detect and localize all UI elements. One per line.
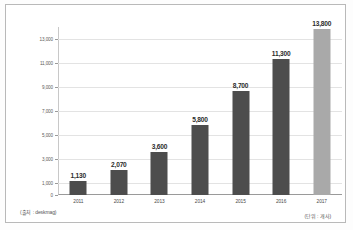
bar-slot: 11,3002016 bbox=[261, 27, 302, 195]
x-tick-label-2012: 2012 bbox=[114, 199, 124, 204]
x-tick-label-2017: 2017 bbox=[317, 199, 327, 204]
bars-group: 1,13020112,07020123,60020135,80020148,70… bbox=[58, 27, 342, 195]
bar-slot: 13,8002017 bbox=[301, 27, 342, 195]
bar-value-label-2013: 3,600 bbox=[152, 143, 168, 150]
figure-frame: 01,0003,0005,0007,0009,00011,00013,000 1… bbox=[5, 4, 346, 223]
bar-slot: 2,0702012 bbox=[99, 27, 140, 195]
y-tick-label: 3,000 bbox=[42, 157, 53, 162]
bar-2017[interactable] bbox=[313, 29, 330, 195]
y-tick-mark bbox=[55, 195, 58, 196]
y-tick-label: 7,000 bbox=[42, 109, 53, 114]
bar-2011[interactable] bbox=[70, 181, 87, 195]
x-tick-label-2016: 2016 bbox=[276, 199, 286, 204]
bar-slot: 5,8002014 bbox=[180, 27, 221, 195]
bar-2013[interactable] bbox=[151, 152, 168, 195]
x-tick-label-2013: 2013 bbox=[154, 199, 164, 204]
bar-slot: 8,7002015 bbox=[220, 27, 261, 195]
bar-2014[interactable] bbox=[191, 125, 208, 195]
y-tick-label: 5,000 bbox=[42, 133, 53, 138]
bar-value-label-2012: 2,070 bbox=[111, 161, 127, 168]
chart-root: 01,0003,0005,0007,0009,00011,00013,000 1… bbox=[0, 0, 353, 230]
bar-value-label-2011: 1,130 bbox=[71, 172, 87, 179]
y-tick-label: 1,000 bbox=[42, 180, 53, 185]
bar-2015[interactable] bbox=[232, 91, 249, 195]
x-tick-label-2014: 2014 bbox=[195, 199, 205, 204]
bar-2012[interactable] bbox=[110, 170, 127, 195]
y-tick-label: 11,000 bbox=[40, 61, 53, 66]
source-footnote: (출처 : deskmag) bbox=[20, 208, 56, 215]
bar-value-label-2017: 13,800 bbox=[312, 20, 331, 27]
x-tick-label-2011: 2011 bbox=[73, 199, 83, 204]
bar-2016[interactable] bbox=[273, 59, 290, 195]
bar-slot: 3,6002013 bbox=[139, 27, 180, 195]
bar-value-label-2015: 8,700 bbox=[233, 82, 249, 89]
y-tick-label: 9,000 bbox=[42, 85, 53, 90]
y-tick-label: 13,000 bbox=[40, 37, 53, 42]
bar-value-label-2014: 5,800 bbox=[192, 116, 208, 123]
x-tick-label-2015: 2015 bbox=[235, 199, 245, 204]
plot-area: 01,0003,0005,0007,0009,00011,00013,000 1… bbox=[58, 27, 342, 195]
unit-footnote: (단위 : 개사) bbox=[304, 212, 331, 219]
bar-value-label-2016: 11,300 bbox=[272, 50, 291, 57]
gridline bbox=[58, 195, 342, 196]
y-tick-label: 0 bbox=[51, 193, 53, 198]
bar-slot: 1,1302011 bbox=[58, 27, 99, 195]
